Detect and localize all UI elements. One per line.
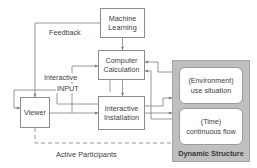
edge-label-interactive: Interactive [43,73,78,82]
node-computer-calculation[interactable]: Computer Calculation [98,50,145,80]
environment-line-1: (Environment) [188,76,233,86]
wire-time-to-cc [145,71,172,119]
panel-node-environment[interactable]: (Environment) use situation [179,67,243,104]
wire-ii-to-panel-upper [145,98,172,106]
diagram-canvas: (Environment) use situation (Time) conti… [0,0,257,168]
edge-label-feedback: Feedback [48,28,82,37]
dynamic-structure-caption: Dynamic Structure [172,149,250,158]
time-line-1: (Time) [201,117,222,127]
panel-node-time[interactable]: (Time) continuous flow [179,108,243,145]
node-machine-learning[interactable]: Machine Learning [100,8,145,38]
machine-learning-line-1: Machine [109,14,137,24]
node-viewer[interactable]: Viewer [20,97,50,128]
interactive-installation-line-1: Interactive [105,104,139,114]
wire-active-participants [35,128,172,143]
computer-calculation-line-1: Computer [106,56,138,66]
environment-line-2: use situation [191,86,231,96]
computer-calculation-line-2: Calculation [103,65,139,75]
viewer-label: Viewer [24,108,46,118]
node-interactive-installation[interactable]: Interactive Installation [98,96,145,130]
edge-label-input: INPUT [56,84,80,93]
machine-learning-line-2: Learning [108,23,136,33]
flow-label-active-participants: Active Participants [56,150,117,159]
time-line-2: continuous flow [186,127,236,137]
interactive-installation-line-2: Installation [104,113,139,123]
